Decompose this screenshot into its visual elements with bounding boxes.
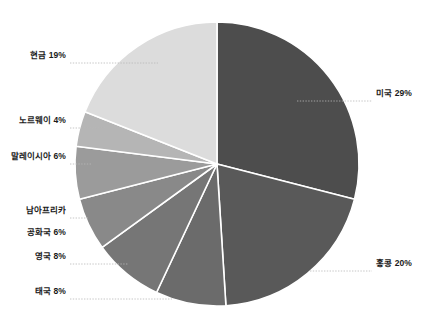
pie-label-south-africa: 남아프리카 공화국 6%	[0, 194, 66, 238]
pie-label-hongkong: 홍콩 20%	[376, 258, 436, 269]
pie-label-south-africa-line1: 남아프리카	[26, 205, 67, 215]
pie-label-cash: 현금 19%	[4, 50, 66, 61]
pie-chart-figure: 현금 19% 노르웨이 4% 말레이시아 6% 남아프리카 공화국 6% 영국 …	[0, 0, 438, 323]
pie-label-norway: 노르웨이 4%	[4, 115, 66, 126]
pie-label-malaysia: 말레이시아 6%	[0, 151, 66, 162]
pie-label-thailand: 태국 8%	[4, 286, 66, 297]
pie-label-usa: 미국 29%	[376, 88, 436, 99]
pie-slices	[75, 22, 359, 306]
pie-label-south-africa-line2: 공화국 6%	[27, 227, 66, 237]
pie-label-uk: 영국 8%	[4, 251, 66, 262]
